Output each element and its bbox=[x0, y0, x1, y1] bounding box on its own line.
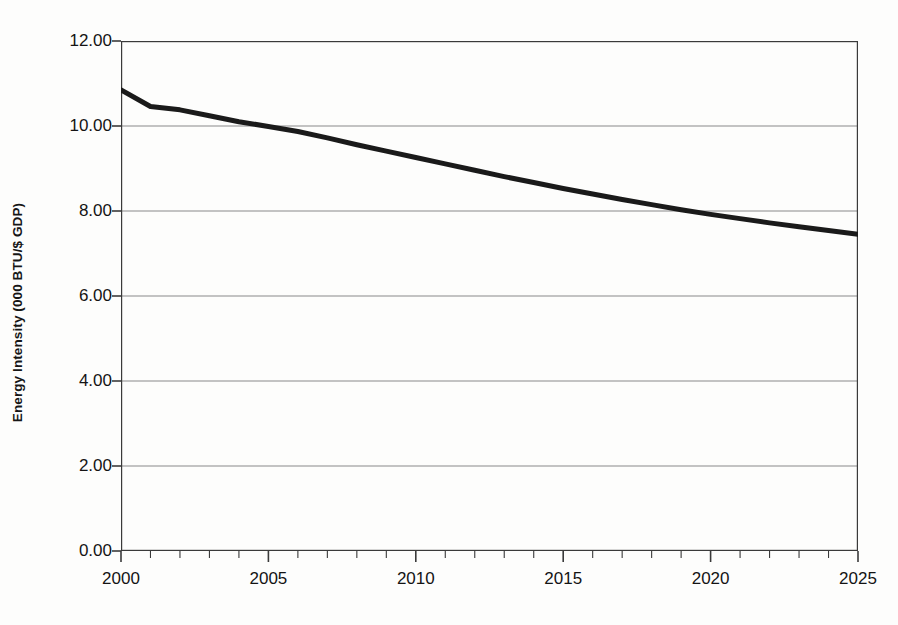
axis-ticks-svg bbox=[0, 0, 898, 625]
chart-container: Energy Intensity (000 BTU/$ GDP) 0.002.0… bbox=[0, 0, 898, 625]
